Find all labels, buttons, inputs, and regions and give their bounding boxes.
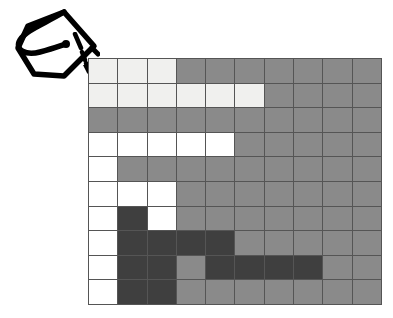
pixel-grid[interactable] <box>88 58 382 305</box>
grid-cell-r4-c4[interactable] <box>177 133 206 158</box>
grid-cell-r8-c7[interactable] <box>265 231 294 256</box>
grid-cell-r1-c6[interactable] <box>235 59 264 84</box>
grid-cell-r9-c6[interactable] <box>235 256 264 281</box>
grid-cell-r6-c4[interactable] <box>177 182 206 207</box>
grid-cell-r3-c1[interactable] <box>89 108 118 133</box>
grid-cell-r1-c1[interactable] <box>89 59 118 84</box>
grid-cell-r10-c5[interactable] <box>206 280 235 305</box>
grid-cell-r9-c2[interactable] <box>118 256 147 281</box>
grid-cell-r9-c1[interactable] <box>89 256 118 281</box>
grid-cell-r10-c8[interactable] <box>294 280 323 305</box>
grid-cell-r1-c5[interactable] <box>206 59 235 84</box>
grid-cell-r4-c7[interactable] <box>265 133 294 158</box>
grid-cell-r6-c3[interactable] <box>148 182 177 207</box>
grid-cell-r6-c9[interactable] <box>323 182 352 207</box>
grid-cell-r5-c2[interactable] <box>118 157 147 182</box>
grid-cell-r7-c1[interactable] <box>89 207 118 232</box>
grid-cell-r2-c1[interactable] <box>89 84 118 109</box>
grid-cell-r5-c5[interactable] <box>206 157 235 182</box>
grid-cell-r3-c9[interactable] <box>323 108 352 133</box>
grid-cell-r2-c2[interactable] <box>118 84 147 109</box>
grid-cell-r10-c4[interactable] <box>177 280 206 305</box>
grid-cell-r7-c2[interactable] <box>118 207 147 232</box>
grid-cell-r5-c3[interactable] <box>148 157 177 182</box>
grid-cell-r2-c9[interactable] <box>323 84 352 109</box>
grid-cell-r8-c4[interactable] <box>177 231 206 256</box>
grid-cell-r6-c5[interactable] <box>206 182 235 207</box>
grid-cell-r2-c3[interactable] <box>148 84 177 109</box>
grid-cell-r2-c10[interactable] <box>353 84 382 109</box>
grid-cell-r8-c3[interactable] <box>148 231 177 256</box>
grid-cell-r8-c2[interactable] <box>118 231 147 256</box>
grid-cell-r5-c8[interactable] <box>294 157 323 182</box>
grid-cell-r10-c6[interactable] <box>235 280 264 305</box>
grid-cell-r7-c4[interactable] <box>177 207 206 232</box>
grid-cell-r5-c4[interactable] <box>177 157 206 182</box>
grid-cell-r2-c6[interactable] <box>235 84 264 109</box>
grid-cell-r10-c7[interactable] <box>265 280 294 305</box>
grid-cell-r7-c5[interactable] <box>206 207 235 232</box>
grid-cell-r6-c10[interactable] <box>353 182 382 207</box>
grid-cell-r7-c3[interactable] <box>148 207 177 232</box>
grid-cell-r2-c5[interactable] <box>206 84 235 109</box>
grid-cell-r4-c9[interactable] <box>323 133 352 158</box>
grid-cell-r4-c2[interactable] <box>118 133 147 158</box>
grid-cell-r9-c9[interactable] <box>323 256 352 281</box>
grid-cell-r5-c9[interactable] <box>323 157 352 182</box>
grid-cell-r5-c7[interactable] <box>265 157 294 182</box>
grid-cell-r2-c7[interactable] <box>265 84 294 109</box>
grid-cell-r7-c9[interactable] <box>323 207 352 232</box>
grid-cell-r3-c3[interactable] <box>148 108 177 133</box>
grid-cell-r1-c4[interactable] <box>177 59 206 84</box>
grid-cell-r1-c3[interactable] <box>148 59 177 84</box>
grid-cell-r1-c8[interactable] <box>294 59 323 84</box>
grid-cell-r1-c9[interactable] <box>323 59 352 84</box>
grid-cell-r5-c6[interactable] <box>235 157 264 182</box>
grid-cell-r6-c1[interactable] <box>89 182 118 207</box>
grid-cell-r9-c10[interactable] <box>353 256 382 281</box>
grid-cell-r8-c8[interactable] <box>294 231 323 256</box>
grid-cell-r4-c1[interactable] <box>89 133 118 158</box>
grid-cell-r2-c4[interactable] <box>177 84 206 109</box>
grid-cell-r4-c10[interactable] <box>353 133 382 158</box>
grid-cell-r6-c2[interactable] <box>118 182 147 207</box>
grid-cell-r8-c6[interactable] <box>235 231 264 256</box>
grid-cell-r3-c5[interactable] <box>206 108 235 133</box>
grid-cell-r10-c10[interactable] <box>353 280 382 305</box>
grid-cell-r9-c4[interactable] <box>177 256 206 281</box>
grid-cell-r8-c9[interactable] <box>323 231 352 256</box>
grid-cell-r1-c10[interactable] <box>353 59 382 84</box>
grid-cell-r3-c4[interactable] <box>177 108 206 133</box>
grid-cell-r9-c7[interactable] <box>265 256 294 281</box>
grid-cell-r4-c3[interactable] <box>148 133 177 158</box>
grid-cell-r9-c5[interactable] <box>206 256 235 281</box>
grid-cell-r2-c8[interactable] <box>294 84 323 109</box>
grid-cell-r5-c10[interactable] <box>353 157 382 182</box>
grid-cell-r10-c1[interactable] <box>89 280 118 305</box>
grid-cell-r9-c3[interactable] <box>148 256 177 281</box>
grid-cell-r3-c10[interactable] <box>353 108 382 133</box>
grid-cell-r5-c1[interactable] <box>89 157 118 182</box>
grid-cell-r3-c8[interactable] <box>294 108 323 133</box>
grid-cell-r3-c6[interactable] <box>235 108 264 133</box>
grid-cell-r3-c2[interactable] <box>118 108 147 133</box>
grid-cell-r7-c6[interactable] <box>235 207 264 232</box>
grid-cell-r10-c2[interactable] <box>118 280 147 305</box>
grid-cell-r6-c7[interactable] <box>265 182 294 207</box>
grid-cell-r8-c10[interactable] <box>353 231 382 256</box>
grid-cell-r3-c7[interactable] <box>265 108 294 133</box>
grid-cell-r7-c7[interactable] <box>265 207 294 232</box>
grid-cell-r6-c6[interactable] <box>235 182 264 207</box>
grid-cell-r8-c5[interactable] <box>206 231 235 256</box>
grid-cell-r7-c10[interactable] <box>353 207 382 232</box>
grid-cell-r9-c8[interactable] <box>294 256 323 281</box>
grid-cell-r6-c8[interactable] <box>294 182 323 207</box>
grid-cell-r1-c2[interactable] <box>118 59 147 84</box>
grid-cell-r10-c9[interactable] <box>323 280 352 305</box>
grid-cell-r4-c8[interactable] <box>294 133 323 158</box>
grid-cell-r4-c6[interactable] <box>235 133 264 158</box>
grid-cell-r1-c7[interactable] <box>265 59 294 84</box>
grid-cell-r4-c5[interactable] <box>206 133 235 158</box>
grid-cell-r7-c8[interactable] <box>294 207 323 232</box>
grid-cell-r10-c3[interactable] <box>148 280 177 305</box>
